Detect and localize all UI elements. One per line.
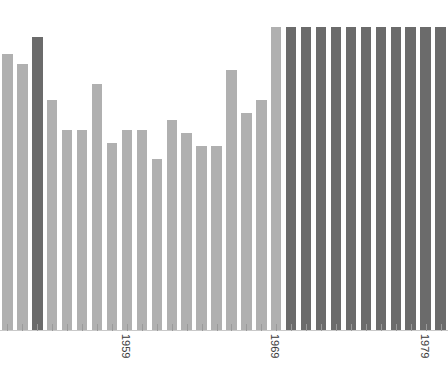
bar-1980 [435,27,445,331]
bar-1977 [391,27,401,331]
bar-1972 [316,27,326,331]
x-tick-1967 [246,324,247,331]
x-tick-1980 [441,324,442,331]
x-tick-1959 [127,324,128,331]
bar-1957 [92,84,102,332]
x-tick-1951 [7,324,8,331]
x-tick-label-1979: 1979 [419,334,431,358]
x-tick-1966 [231,324,232,331]
x-tick-1968 [261,324,262,331]
x-tick-1977 [396,324,397,331]
bar-1967 [241,113,251,331]
x-tick-1960 [142,324,143,331]
bar-1975 [361,27,371,331]
bar-1965 [211,146,221,331]
x-tick-1974 [351,324,352,331]
x-tick-1957 [97,324,98,331]
x-tick-1972 [321,324,322,331]
x-tick-1978 [411,324,412,331]
x-tick-1955 [67,324,68,331]
x-tick-1976 [381,324,382,331]
x-tick-1970 [291,324,292,331]
bar-1952 [17,64,27,331]
bar-1978 [405,27,415,331]
bar-1956 [77,130,87,331]
bar-1976 [376,27,386,331]
bar-1959 [122,130,132,331]
x-tick-1963 [187,324,188,331]
bar-chart: 195919691979 [0,0,448,373]
bar-1955 [62,130,72,331]
bar-1970 [286,27,296,331]
bar-1954 [47,100,57,331]
x-tick-1971 [306,324,307,331]
x-tick-1952 [22,324,23,331]
x-tick-1973 [336,324,337,331]
x-tick-1975 [366,324,367,331]
bar-1964 [196,146,206,331]
bar-1969 [271,27,281,331]
bar-1963 [181,133,191,331]
bar-1961 [152,159,162,331]
x-tick-label-1969: 1969 [269,334,281,358]
bar-1960 [137,130,147,331]
bar-1953 [32,37,42,331]
bar-1971 [301,27,311,331]
bar-1966 [226,70,236,331]
x-tick-1958 [112,324,113,331]
bar-1962 [167,120,177,331]
x-tick-1956 [82,324,83,331]
x-tick-1962 [172,324,173,331]
x-tick-label-1959: 1959 [120,334,132,358]
x-tick-1964 [202,324,203,331]
bar-1951 [2,54,12,331]
x-tick-1969 [276,324,277,331]
x-tick-1961 [157,324,158,331]
plot-area [0,0,448,331]
x-tick-1979 [426,324,427,331]
x-tick-1965 [217,324,218,331]
bar-1973 [331,27,341,331]
bar-1958 [107,143,117,331]
x-tick-1954 [52,324,53,331]
bar-1968 [256,100,266,331]
bar-1974 [346,27,356,331]
bar-1979 [420,27,430,331]
x-tick-1953 [37,324,38,331]
